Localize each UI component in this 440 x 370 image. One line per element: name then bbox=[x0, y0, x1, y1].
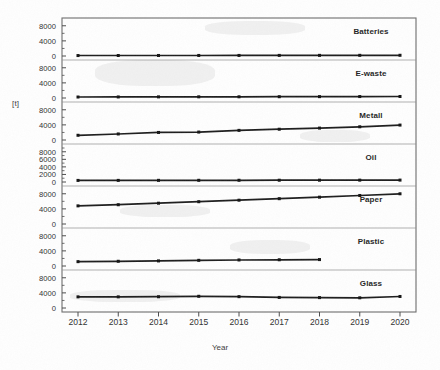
y-tick-label: 4000 bbox=[12, 288, 56, 297]
panel-label-metall: Metall bbox=[359, 111, 382, 120]
plot-area bbox=[0, 0, 440, 370]
y-tick-label: 0 bbox=[12, 262, 56, 271]
x-tick-label: 2017 bbox=[270, 317, 289, 327]
y-tick-label: 0 bbox=[12, 136, 56, 145]
x-tick-label: 2018 bbox=[310, 317, 329, 327]
y-tick-label: 8000 bbox=[12, 63, 56, 72]
y-tick-label: 4000 bbox=[12, 120, 56, 129]
panel-label-batteries: Batteries bbox=[353, 27, 388, 36]
x-tick-label: 2015 bbox=[189, 317, 208, 327]
y-tick-label: 0 bbox=[12, 220, 56, 229]
panel-label-e-waste: E-waste bbox=[356, 69, 387, 78]
x-tick-label: 2020 bbox=[391, 317, 410, 327]
y-tick-label: 4000 bbox=[12, 204, 56, 213]
chart-figure: [t] Year 0400080000400080000400080000200… bbox=[0, 0, 440, 370]
panel-label-plastic: Plastic bbox=[358, 237, 385, 246]
y-tick-label: 8000 bbox=[12, 105, 56, 114]
y-tick-label: 8000 bbox=[12, 231, 56, 240]
panel-label-oil: Oil bbox=[366, 153, 377, 162]
tick-marks bbox=[62, 26, 400, 317]
y-tick-label: 4000 bbox=[12, 246, 56, 255]
y-tick-label: 8000 bbox=[12, 147, 56, 156]
series-layer bbox=[62, 54, 416, 300]
x-tick-label: 2014 bbox=[149, 317, 168, 327]
x-tick-label: 2012 bbox=[69, 317, 88, 327]
y-tick-label: 0 bbox=[12, 52, 56, 61]
x-tick-label: 2016 bbox=[230, 317, 249, 327]
y-tick-label: 8000 bbox=[12, 189, 56, 198]
panel-label-glass: Glass bbox=[360, 279, 382, 288]
y-tick-label: 8000 bbox=[12, 21, 56, 30]
panel-label-paper: Paper bbox=[360, 195, 383, 204]
y-tick-label: 0 bbox=[12, 94, 56, 103]
y-tick-label: 4000 bbox=[12, 78, 56, 87]
x-tick-label: 2013 bbox=[109, 317, 128, 327]
y-tick-label: 8000 bbox=[12, 273, 56, 282]
y-tick-label: 0 bbox=[12, 304, 56, 313]
y-tick-label: 4000 bbox=[12, 36, 56, 45]
x-tick-label: 2019 bbox=[350, 317, 369, 327]
